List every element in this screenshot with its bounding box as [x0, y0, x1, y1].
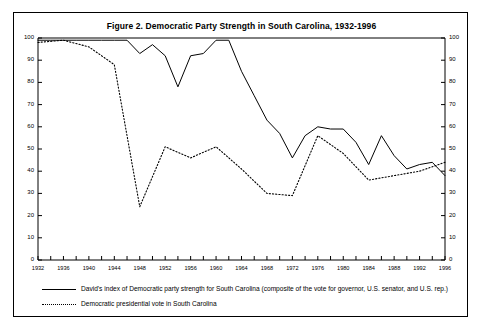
- x-axis-tick-label: 1984: [356, 265, 382, 271]
- legend-swatch-solid-icon: [42, 284, 76, 294]
- chart-series: [38, 40, 445, 207]
- y-axis-tick-label-left: 40: [18, 167, 34, 173]
- y-axis-tick-label-left: 30: [18, 189, 34, 195]
- legend-item: Democratic presidential vote in South Ca…: [42, 296, 462, 311]
- y-axis-tick-label-right: 70: [449, 101, 465, 107]
- y-axis-tick-label-left: 60: [18, 123, 34, 129]
- x-axis-tick-label: 1952: [152, 265, 178, 271]
- y-axis-tick-label-right: 90: [449, 56, 465, 62]
- y-axis-tick-label-left: 100: [18, 34, 34, 40]
- x-axis-tick-label: 1972: [279, 265, 305, 271]
- y-axis-tick-label-right: 0: [449, 256, 465, 262]
- x-axis-tick-label: 1956: [178, 265, 204, 271]
- legend-swatch-dotted-icon: [42, 299, 76, 309]
- x-axis-tick-label: 1988: [381, 265, 407, 271]
- chart-series-line: [38, 40, 445, 175]
- x-axis-tick-label: 1948: [127, 265, 153, 271]
- y-axis-tick-label-right: 20: [449, 212, 465, 218]
- x-axis-tick-label: 1932: [25, 265, 51, 271]
- line-chart-plot: [14, 13, 469, 318]
- y-axis-tick-label-left: 90: [18, 56, 34, 62]
- chart-series-line: [38, 40, 445, 207]
- y-axis-tick-label-right: 50: [449, 145, 465, 151]
- y-axis-tick-label-right: 40: [449, 167, 465, 173]
- y-axis-tick-label-right: 60: [449, 123, 465, 129]
- y-axis-tick-label-left: 50: [18, 145, 34, 151]
- x-axis-tick-label: 1936: [50, 265, 76, 271]
- y-axis-tick-label-left: 70: [18, 101, 34, 107]
- y-axis-tick-label-right: 100: [449, 34, 465, 40]
- y-axis-tick-label-right: 80: [449, 78, 465, 84]
- y-axis-tick-label-left: 20: [18, 212, 34, 218]
- x-axis-tick-label: 1992: [407, 265, 433, 271]
- legend-item-label: David's index of Democratic party streng…: [76, 285, 448, 292]
- y-axis-tick-label-right: 30: [449, 189, 465, 195]
- x-axis-tick-label: 1964: [229, 265, 255, 271]
- x-axis-tick-label: 1976: [305, 265, 331, 271]
- y-axis-tick-label-left: 10: [18, 234, 34, 240]
- x-axis-tick-label: 1996: [432, 265, 458, 271]
- chart-legend: David's index of Democratic party streng…: [42, 281, 462, 311]
- y-axis-tick-label-left: 80: [18, 78, 34, 84]
- x-axis-tick-label: 1940: [76, 265, 102, 271]
- x-axis-tick-label: 1968: [254, 265, 280, 271]
- figure-frame: Figure 2. Democratic Party Strength in S…: [13, 12, 468, 317]
- x-axis-tick-label: 1980: [330, 265, 356, 271]
- x-axis-tick-label: 1944: [101, 265, 127, 271]
- y-axis-tick-label-left: 0: [18, 256, 34, 262]
- y-axis-tick-label-right: 10: [449, 234, 465, 240]
- x-axis-tick-label: 1960: [203, 265, 229, 271]
- legend-item-label: Democratic presidential vote in South Ca…: [76, 300, 217, 307]
- legend-item: David's index of Democratic party streng…: [42, 281, 462, 296]
